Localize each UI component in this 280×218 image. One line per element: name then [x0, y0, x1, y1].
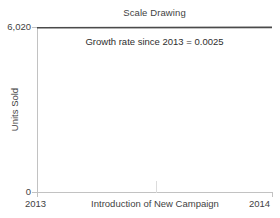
y-axis-label-zero: 0 [26, 186, 31, 197]
y-axis-label-max: 6,020 [7, 21, 31, 32]
y-axis-title: Units Sold [9, 82, 20, 138]
x-axis-tick-left [37, 192, 38, 197]
x-axis-tick-right [272, 192, 273, 197]
chart-title: Scale Drawing [37, 7, 272, 18]
plot-area: Growth rate since 2013 = 0.0025 [37, 27, 272, 192]
growth-rate-annotation: Growth rate since 2013 = 0.0025 [37, 36, 272, 47]
series-line-units-sold [37, 27, 272, 192]
x-axis-label-campaign: Introduction of New Campaign [37, 198, 273, 209]
scale-drawing-chart: Scale Drawing 6,020 0 Units Sold 2013 20… [0, 0, 280, 218]
x-axis-line [37, 192, 273, 193]
